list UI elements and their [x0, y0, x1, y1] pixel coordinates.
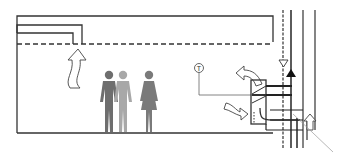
thermostat-label: T — [197, 65, 202, 72]
supply-air-arrow-icon — [236, 66, 262, 86]
occupant-man-light — [114, 71, 132, 132]
supply-down-triangle-icon — [279, 60, 288, 67]
return-air-arrow-icon — [224, 103, 248, 120]
occupant-woman — [140, 71, 158, 132]
fresh-air-intake-arrow-icon — [304, 114, 316, 130]
return-up-triangle-icon — [286, 69, 296, 77]
rising-air-arrow-icon — [68, 49, 86, 88]
ventilation-diagram: T — [0, 0, 337, 157]
